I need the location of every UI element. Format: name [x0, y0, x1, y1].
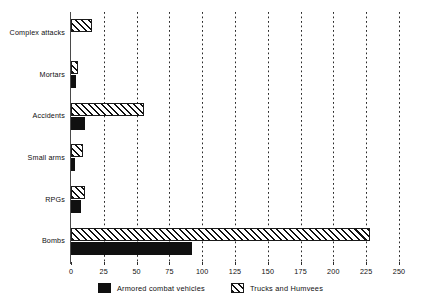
- x-axis-tick-mark: [333, 262, 334, 265]
- y-axis-category-label: Complex attacks: [10, 28, 65, 37]
- x-axis-tick-label: 50: [132, 267, 140, 276]
- legend-label: Trucks and Humvees: [250, 284, 323, 293]
- x-axis-tick-mark: [366, 262, 367, 265]
- x-axis-tick-mark: [268, 262, 269, 265]
- x-axis-tick-label: 150: [262, 267, 275, 276]
- bar-armored-combat-vehicles: [71, 117, 85, 130]
- bar-trucks-and-humvees: [71, 61, 78, 74]
- gridline: [333, 12, 334, 262]
- gridline: [301, 12, 302, 262]
- bar-trucks-and-humvees: [71, 103, 144, 116]
- legend-label: Armored combat vehicles: [117, 284, 205, 293]
- bar-trucks-and-humvees: [71, 144, 83, 157]
- x-axis-tick-mark: [137, 262, 138, 265]
- bar-trucks-and-humvees: [71, 19, 92, 32]
- gridline: [235, 12, 236, 262]
- x-axis-tick-label: 125: [229, 267, 242, 276]
- x-axis-tick-label: 25: [100, 267, 108, 276]
- bar-armored-combat-vehicles: [71, 158, 75, 171]
- legend-swatch-solid-icon: [98, 283, 111, 293]
- x-axis-tick-label: 0: [69, 267, 73, 276]
- x-axis-tick-mark: [399, 262, 400, 265]
- x-axis-tick-mark: [104, 262, 105, 265]
- x-axis-tick-label: 100: [196, 267, 209, 276]
- legend-swatch-hatched-icon: [231, 283, 244, 293]
- x-axis-tick-label: 250: [393, 267, 406, 276]
- x-axis-tick-label: 225: [360, 267, 373, 276]
- y-axis-category-label: Small arms: [28, 153, 65, 162]
- bar-armored-combat-vehicles: [71, 242, 192, 255]
- x-axis-tick-label: 175: [294, 267, 307, 276]
- bar-armored-combat-vehicles: [71, 200, 81, 213]
- y-axis-category-label: Accidents: [32, 111, 65, 120]
- legend-item-trucks-and-humvees: Trucks and Humvees: [231, 283, 323, 293]
- gridline: [137, 12, 138, 262]
- x-axis-tick-label: 200: [327, 267, 340, 276]
- gridline: [169, 12, 170, 262]
- bar-chart: Complex attacksMortarsAccidentsSmall arm…: [0, 0, 421, 304]
- gridline: [268, 12, 269, 262]
- gridline: [399, 12, 400, 262]
- y-axis-category-label: RPGs: [45, 195, 65, 204]
- x-axis-tick-mark: [169, 262, 170, 265]
- x-axis-tick-mark: [235, 262, 236, 265]
- plot-area: [71, 12, 399, 262]
- gridline: [202, 12, 203, 262]
- y-axis-category-label: Mortars: [40, 70, 65, 79]
- y-axis-category-label: Bombs: [42, 236, 65, 245]
- chart-legend: Armored combat vehicles Trucks and Humve…: [0, 283, 421, 293]
- bar-trucks-and-humvees: [71, 186, 85, 199]
- gridline: [366, 12, 367, 262]
- gridline: [104, 12, 105, 262]
- legend-item-armored-combat-vehicles: Armored combat vehicles: [98, 283, 205, 293]
- bar-armored-combat-vehicles: [71, 75, 76, 88]
- x-axis-tick-mark: [301, 262, 302, 265]
- x-axis-tick-label: 75: [165, 267, 173, 276]
- x-axis-tick-mark: [202, 262, 203, 265]
- bar-trucks-and-humvees: [71, 228, 370, 241]
- x-axis-tick-mark: [71, 262, 72, 265]
